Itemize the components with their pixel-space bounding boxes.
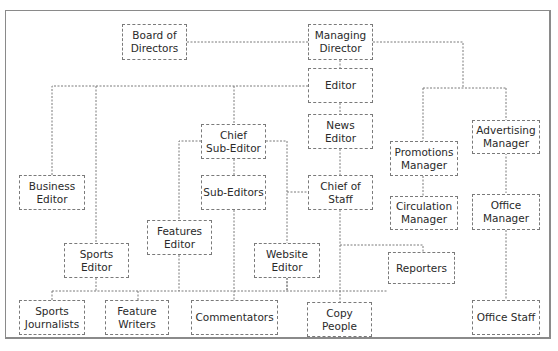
node-business-editor: Business Editor (19, 175, 85, 210)
node-editor: Editor (308, 68, 373, 103)
node-website-editor: Website Editor (254, 243, 320, 278)
node-board-of-directors: Board of Directors (122, 24, 187, 60)
node-sports-editor: Sports Editor (64, 243, 129, 278)
node-office-staff: Office Staff (472, 300, 540, 335)
node-circulation-manager: Circulation Manager (390, 196, 458, 230)
node-news-editor: News Editor (308, 114, 373, 149)
node-managing-director: Managing Director (308, 24, 373, 60)
node-sub-editors: Sub-Editors (201, 175, 266, 210)
node-chief-of-staff: Chief of Staff (308, 175, 373, 210)
node-office-manager: Office Manager (472, 194, 540, 230)
node-features-editor: Features Editor (147, 220, 212, 255)
connector-chiefsub-features (179, 141, 201, 220)
connector-to-reporters (340, 245, 423, 252)
node-copy-people: Copy People (307, 302, 372, 337)
node-advertising-manager: Advertising Manager (472, 120, 540, 154)
node-reporters: Reporters (388, 252, 455, 284)
node-chief-sub-editor: Chief Sub-Editor (201, 124, 266, 159)
node-sports-journalists: Sports Journalists (19, 300, 85, 335)
connector-editor-left (52, 86, 308, 175)
connector-md-right (373, 42, 463, 88)
node-feature-writers: Feature Writers (105, 300, 169, 335)
node-commentators: Commentators (191, 300, 278, 335)
node-promotions-manager: Promotions Manager (390, 141, 458, 176)
